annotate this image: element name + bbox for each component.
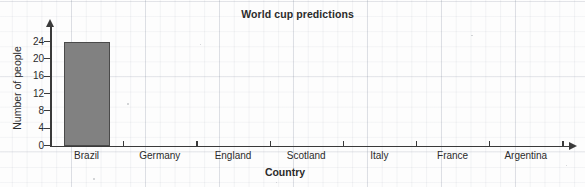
- chart-screenshot: World cup predictions 04812162024 Brazil…: [0, 0, 585, 187]
- y-axis-arrow-icon: [46, 19, 54, 27]
- x-tick-mark: [50, 141, 51, 147]
- x-axis-title: Country: [50, 166, 520, 178]
- plot-area: 04812162024 BrazilGermanyEnglandScotland…: [0, 0, 585, 187]
- x-tick-mark: [196, 141, 197, 147]
- y-tick-label: 24: [4, 37, 44, 47]
- y-tick-label: 16: [4, 71, 44, 81]
- x-category-label: England: [196, 150, 269, 161]
- x-axis-arrow-icon: [569, 142, 577, 150]
- x-tick-mark: [123, 141, 124, 147]
- y-tick-label: 4: [4, 123, 44, 133]
- y-tick-label: 0: [4, 141, 44, 151]
- y-axis-title: Number of people: [11, 28, 23, 148]
- x-category-label: Argentina: [489, 150, 562, 161]
- x-axis-line: [50, 146, 570, 148]
- bar: [64, 42, 110, 146]
- x-tick-mark: [416, 141, 417, 147]
- x-category-label: Brazil: [50, 150, 123, 161]
- y-axis-line: [50, 26, 52, 146]
- y-tick-mark: [44, 128, 50, 129]
- y-tick-mark: [44, 110, 50, 111]
- y-tick-label: 20: [4, 54, 44, 64]
- y-tick-mark: [44, 58, 50, 59]
- y-tick-mark: [44, 76, 50, 77]
- y-tick-mark: [44, 93, 50, 94]
- x-tick-mark: [489, 141, 490, 147]
- x-category-label: Italy: [343, 150, 416, 161]
- y-tick-mark: [44, 41, 50, 42]
- x-tick-mark: [270, 141, 271, 147]
- x-tick-mark: [562, 141, 563, 147]
- x-tick-mark: [343, 141, 344, 147]
- y-tick-label: 8: [4, 106, 44, 116]
- x-category-label: France: [416, 150, 489, 161]
- x-category-label: Germany: [123, 150, 196, 161]
- x-category-label: Scotland: [270, 150, 343, 161]
- y-tick-label: 12: [4, 89, 44, 99]
